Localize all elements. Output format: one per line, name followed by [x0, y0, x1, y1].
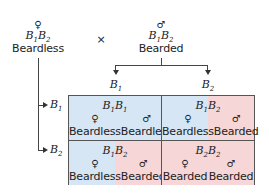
arrow-down-icon [205, 70, 211, 75]
punnett-square: B1B1 ♀ Beardless ♂ Beardless B1B2 ♀ Bear… [68, 95, 255, 185]
arrow-right-icon [43, 147, 48, 153]
male-symbol: ♂ [139, 159, 148, 169]
cell-b1b2-top: B1B2 ♀ Beardless ♂ Bearded [162, 96, 254, 140]
arrow-down-icon [113, 70, 119, 75]
male-parent-phenotype: Bearded [131, 43, 191, 55]
male-symbol: ♂ [227, 159, 236, 169]
male-gamete-b2: B2 [197, 79, 219, 95]
female-symbol: ♀ [184, 114, 191, 124]
cell-b1b1: B1B1 ♀ Beardless ♂ Beardless [69, 96, 161, 140]
male-phenotype: Bearded [209, 171, 254, 183]
female-gamete-b1: B1 [50, 99, 66, 115]
female-parent-phenotype: Beardless [5, 43, 71, 55]
female-symbol: ♀ [181, 159, 188, 169]
male-phenotype: Bearded [214, 126, 259, 138]
male-symbol: ♂ [232, 114, 241, 124]
female-symbol: ♀ [91, 159, 98, 169]
male-branch-line [115, 65, 208, 66]
female-gamete-b2: B2 [50, 144, 66, 160]
female-phenotype: Bearded [163, 171, 208, 183]
female-symbol: ♀ [91, 114, 98, 124]
male-stem-line [161, 58, 162, 65]
cell-b2b2: B2B2 ♀ Bearded ♂ Bearded [162, 141, 254, 185]
cell-b1b2-bottom: B1B2 ♀ Beardless ♂ Bearded [69, 141, 161, 185]
cross-symbol: × [95, 34, 107, 46]
arrow-right-icon [43, 102, 48, 108]
female-phenotype: Beardless [69, 126, 121, 138]
male-symbol: ♂ [142, 114, 151, 124]
grid-row-divider [69, 140, 254, 141]
male-phenotype: Bearded [121, 171, 166, 183]
female-phenotype: Beardless [162, 126, 214, 138]
female-phenotype: Beardless [69, 171, 121, 183]
male-gamete-b1: B1 [105, 79, 127, 95]
